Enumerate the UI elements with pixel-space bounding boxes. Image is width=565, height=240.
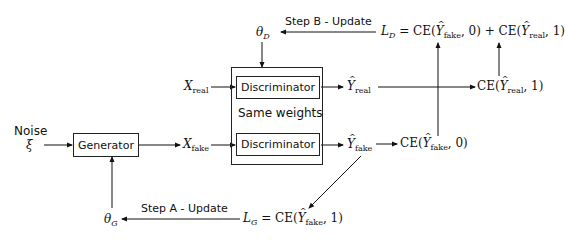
loss-d-equation: LD = CE(Yfake, 0) + CE(Yreal, 1) <box>381 25 565 42</box>
y-real-label: Yreal <box>347 80 371 97</box>
theta-d-label: θD <box>256 26 270 43</box>
loss-g-equation: LG = CE(Yfake, 1) <box>243 212 343 229</box>
x-fake-label: Xfake <box>183 138 209 155</box>
ce-real-term: CE(Yreal, 1) <box>477 80 543 97</box>
step-b-label: Step B - Update <box>285 16 372 28</box>
discriminator-bottom-box: Discriminator <box>236 133 320 156</box>
same-weights-label: Same weights <box>238 107 323 119</box>
y-fake-label: Yfake <box>347 138 372 155</box>
generator-box: Generator <box>73 133 139 157</box>
x-real-label: Xreal <box>184 80 208 97</box>
noise-label: Noise <box>14 125 47 137</box>
discriminator-top-box: Discriminator <box>236 76 320 99</box>
generator-label: Generator <box>78 139 134 152</box>
ce-fake-term: CE(Yfake, 0) <box>400 137 468 154</box>
step-a-label: Step A - Update <box>141 203 228 215</box>
noise-symbol: ξ <box>26 139 33 151</box>
discriminator-bottom-label: Discriminator <box>241 138 315 151</box>
discriminator-top-label: Discriminator <box>241 81 315 94</box>
theta-g-label: θG <box>104 213 118 230</box>
